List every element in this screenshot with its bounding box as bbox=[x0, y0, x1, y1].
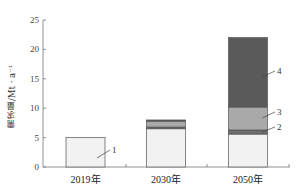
segment-label-1: 1 bbox=[112, 145, 117, 155]
y-axis-label: 需求量/Mt · a⁻¹ bbox=[6, 56, 18, 136]
bar-segment-1 bbox=[229, 134, 268, 167]
bar-segment-2 bbox=[229, 130, 268, 134]
segment-label-4: 4 bbox=[277, 66, 282, 76]
bar-segment-1 bbox=[147, 129, 186, 167]
y-tick-label: 20 bbox=[30, 44, 40, 54]
bar-segment-4 bbox=[229, 38, 268, 107]
bar-segment-4 bbox=[147, 120, 186, 121]
x-category-label: 2019年 bbox=[71, 173, 101, 185]
bar-segment-3 bbox=[147, 121, 186, 127]
segment-label-3: 3 bbox=[277, 107, 282, 117]
y-tick-label: 5 bbox=[35, 133, 40, 143]
bars bbox=[66, 38, 268, 167]
y-tick-label: 15 bbox=[30, 74, 40, 84]
y-tick-label: 0 bbox=[35, 162, 40, 172]
y-tick-label: 25 bbox=[30, 15, 40, 25]
y-tick-label: 10 bbox=[30, 103, 40, 113]
bar-segment-1 bbox=[66, 138, 105, 167]
x-category-label: 2050年 bbox=[233, 173, 263, 185]
bar-segment-3 bbox=[229, 107, 268, 130]
x-category-label: 2030年 bbox=[151, 173, 181, 185]
stacked-bar-chart: 05101520252019年2030年2050年 1234 bbox=[0, 0, 305, 196]
segment-label-2: 2 bbox=[277, 122, 282, 132]
